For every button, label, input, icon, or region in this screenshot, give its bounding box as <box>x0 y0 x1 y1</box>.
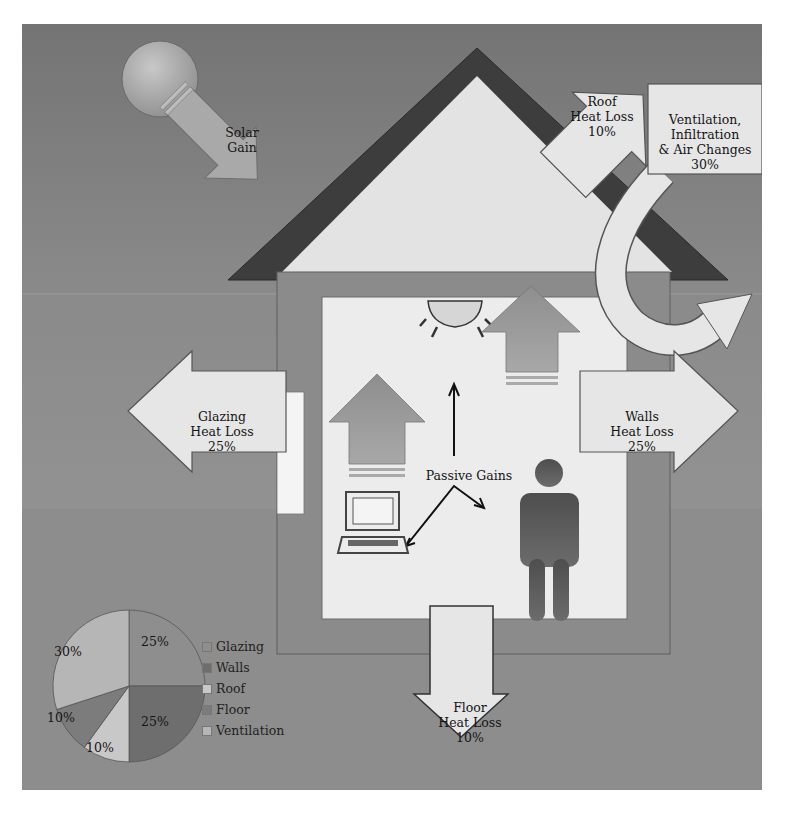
legend-item-roof: Roof <box>202 678 284 699</box>
legend-item-walls: Walls <box>202 657 284 678</box>
legend-item-floor: Floor <box>202 699 284 720</box>
pie-label-glazing: 25% <box>135 634 175 649</box>
pie-legend: Glazing Walls Roof Floor Ventilation <box>202 636 284 741</box>
legend-swatch <box>202 642 212 652</box>
legend-swatch <box>202 726 212 736</box>
roof-heat-loss-label: RoofHeat Loss10% <box>562 94 642 139</box>
legend-item-ventilation: Ventilation <box>202 720 284 741</box>
legend-swatch <box>202 663 212 673</box>
pie-label-floor: 10% <box>41 710 81 725</box>
pie-label-walls: 25% <box>135 714 175 729</box>
pie-label-roof: 10% <box>80 740 120 755</box>
ventilation-label: Ventilation,Infiltration& Air Changes30% <box>648 112 762 172</box>
solar-gain-label: SolarGain <box>217 125 267 155</box>
passive-gains-label: Passive Gains <box>414 468 524 483</box>
diagram-panel: SolarGain RoofHeat Loss10% Ventilation,I… <box>22 24 762 790</box>
legend-swatch <box>202 705 212 715</box>
walls-heat-loss-label: WallsHeat Loss25% <box>592 409 692 454</box>
laptop-icon <box>338 492 408 553</box>
legend-item-glazing: Glazing <box>202 636 284 657</box>
glazing-heat-loss-label: GlazingHeat Loss25% <box>172 409 272 454</box>
legend-swatch <box>202 684 212 694</box>
pie-label-ventilation: 30% <box>48 644 88 659</box>
pie-chart <box>53 610 205 762</box>
floor-heat-loss-label: FloorHeat Loss10% <box>430 700 510 745</box>
